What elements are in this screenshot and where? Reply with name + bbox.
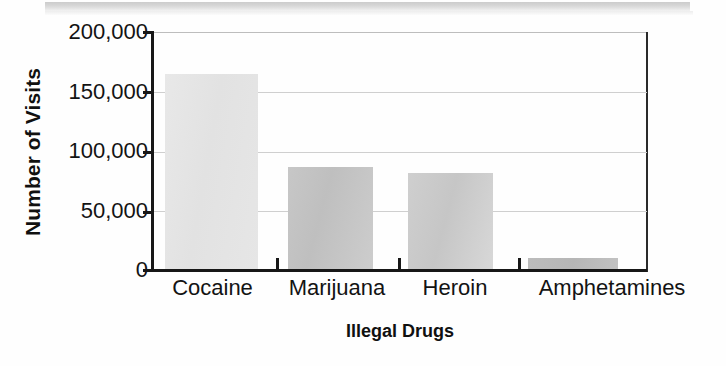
x-label-cocaine: Cocaine [150, 277, 275, 299]
y-tick-mark-200000 [143, 31, 154, 34]
plot-frame-top-border [153, 32, 647, 33]
y-axis-tick-labels: 200,000 150,000 100,000 50,000 0 [36, 0, 148, 366]
y-tick-label-100000: 100,000 [38, 140, 148, 162]
x-label-amphetamines: Amphetamines [512, 277, 712, 299]
y-tick-label-200000: 200,000 [38, 21, 148, 43]
y-tick-label-150000: 150,000 [38, 81, 148, 103]
y-tick-mark-150000 [143, 91, 154, 94]
bar-cocaine [165, 74, 258, 271]
y-tick-label-50000: 50,000 [38, 200, 148, 222]
x-tick-mark-1 [276, 258, 279, 270]
x-tick-mark-2 [398, 258, 401, 270]
y-tick-mark-50000 [143, 211, 154, 214]
y-tick-label-0: 0 [38, 259, 148, 281]
x-tick-mark-3 [518, 258, 521, 270]
bar-heroin [408, 173, 493, 271]
x-axis-title: Illegal Drugs [153, 322, 647, 340]
bar-chart-figure: Number of Visits 200,000 150,000 100,000… [0, 0, 726, 366]
plot-area [153, 32, 647, 271]
x-label-heroin: Heroin [400, 277, 510, 299]
bar-marijuana [288, 167, 373, 271]
x-label-marijuana: Marijuana [272, 277, 402, 299]
y-tick-mark-100000 [143, 151, 154, 154]
